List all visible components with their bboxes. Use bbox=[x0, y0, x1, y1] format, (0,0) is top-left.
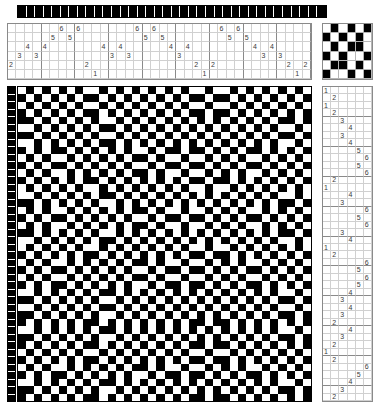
treadling-cell[interactable] bbox=[323, 341, 331, 348]
threading-cell[interactable] bbox=[42, 52, 50, 61]
treadling-cell[interactable] bbox=[364, 132, 372, 139]
threading-cell[interactable] bbox=[160, 52, 168, 61]
weft-color-cell[interactable] bbox=[8, 275, 15, 283]
threading-cell[interactable]: 2 bbox=[8, 61, 16, 70]
treadling-cell[interactable]: 2 bbox=[331, 356, 339, 363]
threading-cell[interactable] bbox=[109, 33, 117, 42]
threading-cell[interactable] bbox=[252, 61, 260, 70]
treadling-grid[interactable]: 1212343456562143656341265654343243212654… bbox=[322, 86, 373, 402]
tieup-cell[interactable] bbox=[339, 61, 347, 70]
threading-cell[interactable] bbox=[143, 42, 151, 51]
treadling-cell[interactable] bbox=[339, 341, 347, 348]
threading-cell[interactable] bbox=[269, 52, 277, 61]
threading-cell[interactable] bbox=[75, 61, 83, 70]
tieup-cell[interactable] bbox=[339, 70, 347, 79]
treadling-cell[interactable] bbox=[356, 304, 364, 311]
threading-cell[interactable] bbox=[109, 70, 117, 79]
treadling-cell[interactable] bbox=[331, 289, 339, 296]
treadling-cell[interactable]: 1 bbox=[323, 184, 331, 191]
threading-cell[interactable] bbox=[261, 61, 269, 70]
threading-cell[interactable] bbox=[134, 33, 142, 42]
treadling-cell[interactable]: 2 bbox=[331, 319, 339, 326]
threading-cell[interactable] bbox=[227, 42, 235, 51]
treadling-cell[interactable] bbox=[348, 386, 356, 393]
weft-color-cell[interactable] bbox=[8, 192, 15, 200]
treadling-cell[interactable] bbox=[356, 199, 364, 206]
treadling-cell[interactable] bbox=[323, 311, 331, 318]
threading-cell[interactable]: 5 bbox=[227, 33, 235, 42]
weft-color-cell[interactable] bbox=[8, 357, 15, 365]
treadling-cell[interactable] bbox=[323, 274, 331, 281]
treadling-cell[interactable] bbox=[348, 251, 356, 258]
threading-cell[interactable] bbox=[42, 33, 50, 42]
treadling-cell[interactable] bbox=[364, 379, 372, 386]
weft-color-cell[interactable] bbox=[8, 155, 15, 163]
treadling-cell[interactable] bbox=[331, 222, 339, 229]
treadling-cell[interactable]: 4 bbox=[348, 139, 356, 146]
treadling-cell[interactable] bbox=[323, 296, 331, 303]
weft-color-cell[interactable] bbox=[8, 162, 15, 170]
threading-cell[interactable] bbox=[193, 42, 201, 51]
threading-cell[interactable] bbox=[286, 52, 294, 61]
weft-color-cell[interactable] bbox=[8, 267, 15, 275]
treadling-cell[interactable]: 2 bbox=[331, 251, 339, 258]
treadling-cell[interactable] bbox=[323, 177, 331, 184]
treadling-cell[interactable] bbox=[364, 371, 372, 378]
treadling-cell[interactable] bbox=[356, 169, 364, 176]
threading-cell[interactable] bbox=[109, 61, 117, 70]
treadling-cell[interactable] bbox=[339, 379, 347, 386]
treadling-cell[interactable] bbox=[364, 139, 372, 146]
treadling-cell[interactable]: 6 bbox=[364, 259, 372, 266]
weft-color-cell[interactable] bbox=[8, 222, 15, 230]
treadling-cell[interactable] bbox=[356, 87, 364, 94]
weft-color-cell[interactable] bbox=[8, 395, 15, 402]
treadling-cell[interactable] bbox=[356, 154, 364, 161]
treadling-cell[interactable] bbox=[339, 237, 347, 244]
threading-cell[interactable] bbox=[151, 70, 159, 79]
treadling-cell[interactable] bbox=[364, 296, 372, 303]
threading-cell[interactable] bbox=[244, 52, 252, 61]
tieup-cell[interactable] bbox=[364, 24, 372, 33]
treadling-cell[interactable] bbox=[364, 289, 372, 296]
warp-color-cell[interactable] bbox=[86, 6, 95, 17]
treadling-cell[interactable]: 6 bbox=[364, 274, 372, 281]
treadling-cell[interactable] bbox=[364, 214, 372, 221]
threading-cell[interactable] bbox=[303, 33, 311, 42]
threading-cell[interactable] bbox=[218, 70, 226, 79]
warp-color-cell[interactable] bbox=[112, 6, 121, 17]
weft-color-cell[interactable] bbox=[8, 147, 15, 155]
threading-cell[interactable] bbox=[67, 24, 75, 33]
threading-cell[interactable] bbox=[92, 61, 100, 70]
warp-color-cell[interactable] bbox=[27, 6, 36, 17]
threading-cell[interactable] bbox=[294, 52, 302, 61]
threading-cell[interactable] bbox=[101, 24, 109, 33]
threading-cell[interactable] bbox=[117, 70, 125, 79]
threading-cell[interactable] bbox=[67, 61, 75, 70]
treadling-cell[interactable] bbox=[323, 207, 331, 214]
treadling-cell[interactable] bbox=[364, 251, 372, 258]
warp-color-cell[interactable] bbox=[95, 6, 104, 17]
threading-cell[interactable] bbox=[185, 70, 193, 79]
threading-grid[interactable]: 666666555555444444443333333222222111 bbox=[7, 23, 312, 80]
treadling-cell[interactable]: 2 bbox=[331, 109, 339, 116]
treadling-cell[interactable] bbox=[323, 117, 331, 124]
tieup-cell[interactable] bbox=[331, 70, 339, 79]
treadling-cell[interactable] bbox=[364, 162, 372, 169]
treadling-cell[interactable]: 4 bbox=[348, 326, 356, 333]
treadling-cell[interactable] bbox=[323, 326, 331, 333]
threading-cell[interactable] bbox=[59, 52, 67, 61]
treadling-cell[interactable] bbox=[348, 147, 356, 154]
treadling-cell[interactable] bbox=[339, 349, 347, 356]
tieup-cell[interactable] bbox=[364, 70, 372, 79]
treadling-cell[interactable] bbox=[364, 266, 372, 273]
warp-color-cell[interactable] bbox=[121, 6, 130, 17]
threading-cell[interactable] bbox=[227, 52, 235, 61]
treadling-cell[interactable] bbox=[364, 356, 372, 363]
threading-cell[interactable] bbox=[16, 42, 24, 51]
threading-cell[interactable] bbox=[235, 61, 243, 70]
tieup-cell[interactable] bbox=[348, 42, 356, 51]
threading-cell[interactable]: 3 bbox=[261, 52, 269, 61]
treadling-cell[interactable] bbox=[348, 341, 356, 348]
treadling-cell[interactable] bbox=[356, 177, 364, 184]
threading-cell[interactable] bbox=[286, 33, 294, 42]
